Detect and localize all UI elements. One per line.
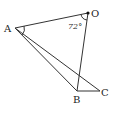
angle-arc-O — [81, 15, 87, 21]
point-O-dot — [86, 11, 89, 14]
geometry-diagram: O A B C 72° — [0, 0, 118, 116]
label-O: O — [91, 8, 99, 19]
segment-AC — [15, 28, 100, 91]
label-A: A — [3, 23, 12, 34]
label-B: B — [73, 94, 80, 105]
segment-AB — [15, 28, 77, 91]
label-C: C — [101, 87, 109, 98]
angle-label-72: 72° — [68, 22, 82, 31]
